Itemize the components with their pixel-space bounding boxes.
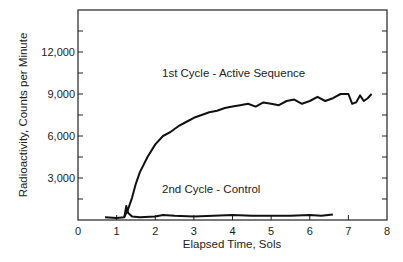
series-line-1 [105,94,372,218]
x-tick-label: 4 [229,225,235,237]
x-tick-label: 6 [307,225,313,237]
line-chart: 012345678 3,0006,0009,00012,000 1st Cycl… [0,0,403,262]
annotation-control: 2nd Cycle - Control [162,183,260,195]
annotation-active: 1st Cycle - Active Sequence [162,67,305,79]
y-tick-label: 6,000 [47,130,75,142]
x-tick-label: 0 [75,225,81,237]
x-tick-label: 5 [268,225,274,237]
x-tick-label: 3 [191,225,197,237]
series-line-2 [124,206,333,217]
x-tick-label: 7 [345,225,351,237]
x-tick-label: 2 [152,225,158,237]
x-axis-label: Elapsed Time, Sols [183,238,282,250]
y-axis-label: Radioactivity, Counts per Minute [17,33,29,198]
y-tick-label: 3,000 [47,172,75,184]
x-tick-label: 8 [384,225,390,237]
y-tick-label: 12,000 [41,46,75,58]
x-tick-label: 1 [114,225,120,237]
y-tick-label: 9,000 [47,88,75,100]
